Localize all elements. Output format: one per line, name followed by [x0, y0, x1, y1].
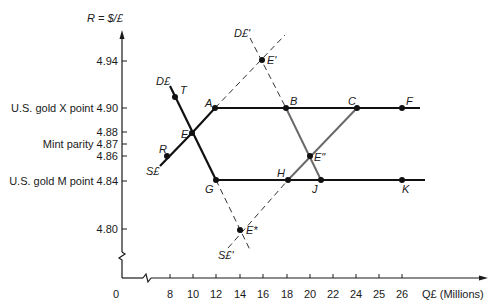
demand-prime-solid — [286, 108, 321, 180]
label-supply-prime-curve: S£' — [218, 249, 234, 261]
label-H: H — [277, 167, 285, 179]
label-B: B — [290, 95, 297, 107]
label-C: C — [348, 95, 356, 107]
point-E-prime — [259, 57, 265, 63]
y-axis-break-icon — [119, 252, 125, 278]
point-E-double-prime — [307, 153, 313, 159]
label-R: R — [159, 143, 167, 155]
x-tick-16: 16 — [257, 288, 269, 300]
x-tick-26: 26 — [396, 288, 408, 300]
label-E: E — [181, 128, 189, 140]
points — [164, 57, 405, 233]
x-axis — [122, 274, 488, 282]
label-E-double-prime: E" — [314, 151, 326, 163]
dashed-lines — [215, 35, 288, 250]
point-A — [212, 105, 218, 111]
x-origin-label: 0 — [113, 288, 119, 300]
supply-extension-dashed — [215, 35, 285, 108]
label-G: G — [205, 183, 214, 195]
point-E — [189, 130, 195, 136]
y-tick-4-88: 4.88 — [97, 126, 118, 138]
point-E-star — [237, 227, 243, 233]
demand-prime-dashed — [250, 38, 286, 108]
gold-standard-diagram: R = $/£ 4.94 U.S. gold X point 4.90 4.88… — [0, 0, 502, 306]
label-E-prime: E' — [267, 54, 277, 66]
point-T — [172, 94, 178, 100]
shifted-curves — [286, 108, 357, 180]
x-tick-8: 8 — [167, 288, 173, 300]
point-F — [399, 105, 405, 111]
point-J — [318, 177, 324, 183]
y-tick-4-80: 4.80 — [97, 223, 118, 235]
y-axis-arrow-icon — [120, 30, 125, 39]
x-tick-22: 22 — [327, 288, 339, 300]
point-G — [213, 177, 219, 183]
x-tick-18: 18 — [281, 288, 293, 300]
supply-prime-dashed — [228, 180, 288, 248]
label-E-star: E* — [246, 224, 258, 236]
x-tick-20: 20 — [304, 288, 316, 300]
label-J: J — [311, 183, 318, 195]
y-axis-title: R = $/£ — [87, 12, 124, 24]
demand-extension-dashed — [216, 180, 250, 250]
label-demand-curve: D£ — [156, 75, 171, 87]
label-F: F — [406, 95, 414, 107]
label-demand-prime-curve: D£' — [234, 27, 251, 39]
supply-prime-solid — [288, 108, 357, 180]
y-tick-4-94: 4.94 — [97, 55, 118, 67]
x-tick-14: 14 — [234, 288, 246, 300]
x-tick-25: 25 — [373, 288, 385, 300]
x-axis-arrow-icon — [479, 276, 488, 281]
label-A: A — [204, 97, 212, 109]
x-axis-title: Q£ (Millions) — [422, 288, 484, 300]
y-tick-4-90-gold-x-point: U.S. gold X point 4.90 — [11, 102, 118, 114]
x-tick-12: 12 — [210, 288, 222, 300]
label-T: T — [180, 84, 188, 96]
x-tick-10: 10 — [187, 288, 199, 300]
x-axis-break-icon — [143, 274, 151, 282]
point-H — [285, 177, 291, 183]
x-tick-24: 24 — [350, 288, 362, 300]
point-B — [283, 105, 289, 111]
y-tick-4-87-mint-parity: Mint parity 4.87 — [43, 138, 118, 150]
label-supply-curve: S£ — [146, 165, 160, 177]
y-tick-4-84-gold-m-point: U.S. gold M point 4.84 — [9, 175, 118, 187]
y-axis — [119, 30, 127, 278]
y-tick-4-86: 4.86 — [97, 150, 118, 162]
label-K: K — [402, 183, 410, 195]
